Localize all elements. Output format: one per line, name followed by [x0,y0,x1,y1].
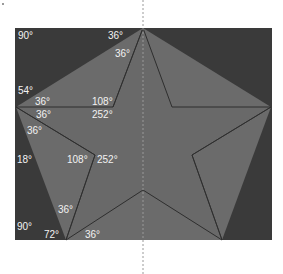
angle-label: 252° [97,155,118,165]
angle-label: 108° [92,97,113,107]
angle-label: 90° [17,222,32,232]
angle-label: 36° [85,230,100,240]
angle-label: 18° [17,155,32,165]
angle-label: 36° [108,31,123,41]
angle-label: 36° [35,97,50,107]
angle-label: 36° [115,49,130,59]
angle-label: 36° [27,126,42,136]
corner-mark [2,3,4,5]
angle-label: 90° [18,31,33,41]
angle-label: 108° [67,155,88,165]
angle-label: 36° [36,110,51,120]
angle-label: 36° [58,205,73,215]
pentagram-diagram [0,0,283,274]
angle-label: 54° [18,86,33,96]
angle-label: 72° [44,230,59,240]
angle-label: 252° [92,110,113,120]
